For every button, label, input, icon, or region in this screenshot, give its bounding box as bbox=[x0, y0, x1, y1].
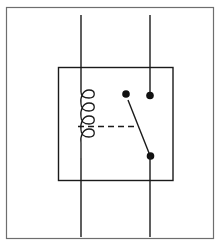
relay-schematic bbox=[0, 0, 222, 244]
relay-housing bbox=[59, 68, 174, 181]
contact-free bbox=[122, 90, 130, 98]
outer-frame bbox=[7, 8, 214, 239]
relay-coil bbox=[81, 90, 94, 158]
contact-fixed-top bbox=[146, 92, 154, 100]
